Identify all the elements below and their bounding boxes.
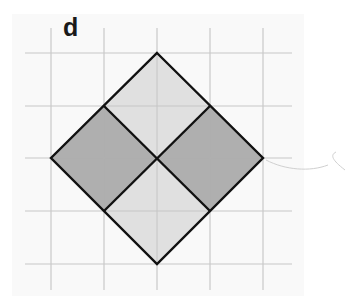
figure-label: d bbox=[63, 15, 78, 40]
grid-diagram bbox=[0, 0, 362, 305]
pencil-marks bbox=[266, 152, 345, 170]
